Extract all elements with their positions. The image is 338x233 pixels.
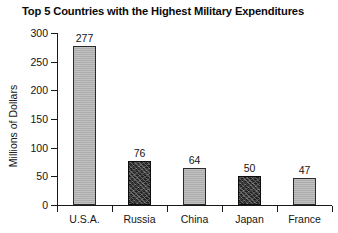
plot-area: Millions of Dollars 050100150200250300 2… <box>0 0 338 233</box>
x-axis-tick <box>112 206 113 212</box>
y-axis-tick-label-container: 200 <box>0 85 48 95</box>
x-axis-category-label: Japan <box>222 213 277 225</box>
y-axis-tick-label: 0 <box>2 200 48 210</box>
y-axis-tick-label: 150 <box>2 114 48 124</box>
bar-russia <box>128 161 151 205</box>
x-axis-category-label: U.S.A. <box>57 213 112 225</box>
bar-japan <box>238 176 261 205</box>
y-axis-tick-label: 200 <box>2 85 48 95</box>
bar-value-label: 277 <box>60 33 110 44</box>
y-axis-tick <box>51 90 57 91</box>
bar-france <box>293 178 316 205</box>
y-axis-line <box>57 33 58 206</box>
y-axis-tick-label: 50 <box>2 171 48 181</box>
bar-value-label: 64 <box>170 155 220 166</box>
y-axis-title: Millions of Dollars <box>7 66 19 186</box>
x-axis-tick <box>277 206 278 212</box>
y-axis-tick <box>51 33 57 34</box>
y-axis-tick-label: 100 <box>2 143 48 153</box>
y-axis-tick <box>51 62 57 63</box>
y-axis-tick <box>51 148 57 149</box>
x-axis-category-label: Russia <box>112 213 167 225</box>
bar-value-label: 50 <box>225 163 275 174</box>
y-axis-tick-label: 300 <box>2 28 48 38</box>
x-axis-category-label: China <box>167 213 222 225</box>
bar-value-label: 47 <box>280 165 330 176</box>
x-axis-line <box>57 205 332 206</box>
bar-china <box>183 168 206 205</box>
x-axis-tick <box>332 206 333 212</box>
y-axis-tick <box>51 176 57 177</box>
y-axis-tick-label-container: 300 <box>0 28 48 38</box>
x-axis-category-label: France <box>277 213 332 225</box>
y-axis-tick-label-container: 250 <box>0 57 48 67</box>
x-axis-tick <box>57 206 58 212</box>
bar-value-label: 76 <box>115 148 165 159</box>
y-axis-tick-label-container: 50 <box>0 171 48 181</box>
bar-u-s-a <box>73 46 96 205</box>
y-axis-tick-label: 250 <box>2 57 48 67</box>
x-axis-tick <box>167 206 168 212</box>
x-axis-tick <box>222 206 223 212</box>
chart-page: Top 5 Countries with the Highest Militar… <box>0 0 338 233</box>
y-axis-tick <box>51 119 57 120</box>
y-axis-tick-label-container: 0 <box>0 200 48 210</box>
y-axis-tick-label-container: 100 <box>0 143 48 153</box>
y-axis-tick-label-container: 150 <box>0 114 48 124</box>
